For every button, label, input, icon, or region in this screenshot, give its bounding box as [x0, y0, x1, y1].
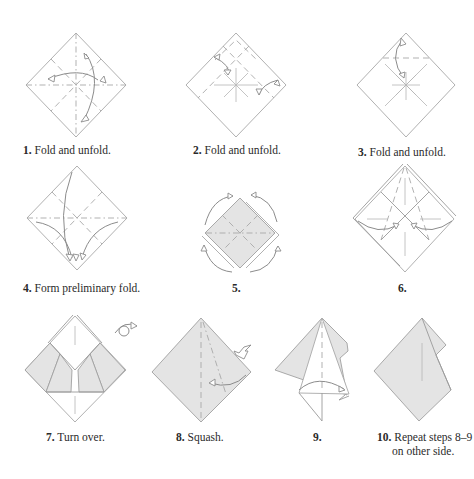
step-number: 9.: [313, 431, 322, 443]
step-1-caption: 1. Fold and unfold.: [23, 144, 111, 156]
step-text: Fold and unfold.: [35, 144, 111, 156]
step-number: 8.: [176, 431, 185, 443]
turn-over-icon: [115, 322, 137, 336]
step-3-caption: 3. Fold and unfold.: [358, 146, 446, 158]
step-1-figure: [26, 33, 126, 137]
step-text: Fold and unfold.: [205, 144, 281, 156]
step-number: 4.: [23, 282, 32, 294]
step-text: on other side.: [392, 445, 454, 457]
step-2-figure: [186, 33, 286, 137]
step-text: Squash.: [188, 431, 224, 443]
origami-diagram: [0, 0, 474, 479]
step-9-caption: 9.: [313, 431, 322, 443]
step-8-caption: 8. Squash.: [176, 431, 224, 443]
step-4-figure: [27, 166, 127, 270]
step-10-figure: [374, 318, 451, 421]
step-number: 6.: [398, 282, 407, 294]
step-5-caption: 5.: [232, 282, 241, 294]
step-text: Turn over.: [57, 431, 105, 443]
step-text: Repeat steps 8–9: [394, 431, 472, 443]
step-number: 10.: [377, 431, 391, 443]
step-2-caption: 2. Fold and unfold.: [193, 144, 281, 156]
step-number: 3.: [358, 146, 367, 158]
step-6-caption: 6.: [398, 282, 407, 294]
step-7-figure: [25, 315, 137, 422]
step-4-caption: 4. Form preliminary fold.: [23, 282, 140, 294]
step-number: 5.: [232, 282, 241, 294]
step-text: Form preliminary fold.: [35, 282, 141, 294]
step-10-caption: 10. Repeat steps 8–9: [377, 431, 472, 443]
step-8-figure: [152, 318, 251, 422]
step-6-figure: [353, 164, 456, 272]
step-7-caption: 7. Turn over.: [46, 431, 105, 443]
step-number: 1.: [23, 144, 32, 156]
step-10-caption-line2: on other side.: [392, 445, 454, 457]
step-5-figure: [201, 192, 281, 272]
step-3-figure: [357, 33, 455, 137]
step-9-figure: [275, 318, 349, 421]
step-number: 2.: [193, 144, 202, 156]
step-number: 7.: [46, 431, 55, 443]
step-text: Fold and unfold.: [370, 146, 446, 158]
